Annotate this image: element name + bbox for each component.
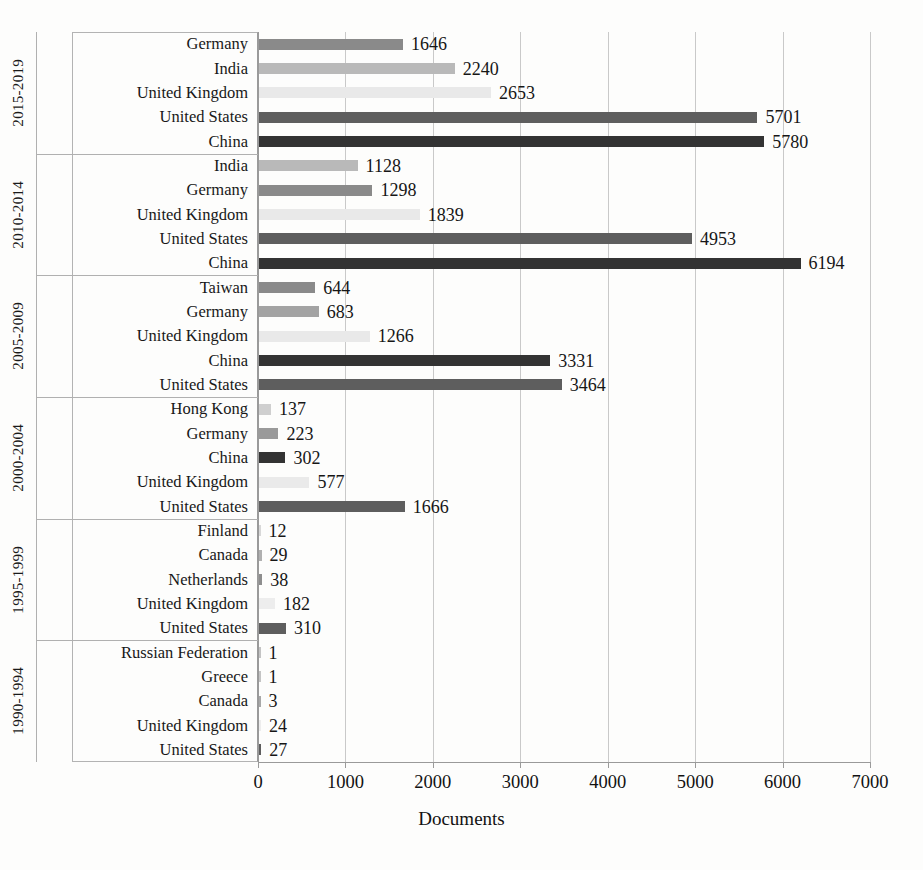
x-tick-mark-7000 xyxy=(870,762,871,768)
bar-value-label: 38 xyxy=(270,571,288,589)
x-tick-mark-2000 xyxy=(433,762,434,768)
bar-united-kingdom xyxy=(259,477,309,488)
group-separator xyxy=(36,154,258,155)
category-label: China xyxy=(76,134,248,151)
bar-united-states xyxy=(259,379,562,390)
category-label: United Kingdom xyxy=(76,474,248,491)
bar-united-kingdom xyxy=(259,331,370,342)
x-tick-label-2000: 2000 xyxy=(393,772,473,793)
group-label-2010-2014: 2010-2014 xyxy=(0,154,36,276)
category-label: Germany xyxy=(76,182,248,199)
bar-value-label: 27 xyxy=(269,741,287,759)
bar-value-label: 683 xyxy=(327,303,354,321)
x-tick-mark-4000 xyxy=(608,762,609,768)
x-tick-label-4000: 4000 xyxy=(568,772,648,793)
category-label: India xyxy=(76,158,248,175)
bar-united-kingdom xyxy=(259,87,491,98)
category-label: China xyxy=(76,450,248,467)
bar-china xyxy=(259,355,550,366)
bar-germany xyxy=(259,428,278,439)
category-label: United States xyxy=(76,742,248,759)
bar-germany xyxy=(259,39,403,50)
bar-value-label: 1 xyxy=(269,668,278,686)
category-label: Canada xyxy=(76,547,248,564)
category-label: United Kingdom xyxy=(76,718,248,735)
bar-value-label: 223 xyxy=(286,425,313,443)
bar-value-label: 5701 xyxy=(765,108,801,126)
bar-value-label: 182 xyxy=(283,595,310,613)
x-tick-mark-5000 xyxy=(695,762,696,768)
bar-united-states xyxy=(259,112,757,123)
category-label: Germany xyxy=(76,426,248,443)
category-label: United Kingdom xyxy=(76,85,248,102)
bar-hong-kong xyxy=(259,404,271,415)
category-label: Germany xyxy=(76,36,248,53)
category-label: Canada xyxy=(76,693,248,710)
bar-value-label: 577 xyxy=(317,473,344,491)
bar-united-states xyxy=(259,501,405,512)
bar-value-label: 6194 xyxy=(809,254,845,272)
bar-value-label: 24 xyxy=(269,717,287,735)
group-separator xyxy=(36,640,258,641)
bar-china xyxy=(259,258,801,269)
category-label: Germany xyxy=(76,304,248,321)
bar-canada xyxy=(259,550,262,561)
category-label: Russian Federation xyxy=(76,645,248,662)
bar-value-label: 302 xyxy=(293,449,320,467)
bar-value-label: 1666 xyxy=(413,498,449,516)
category-label: United States xyxy=(76,377,248,394)
category-label: Taiwan xyxy=(76,280,248,297)
bar-value-label: 12 xyxy=(269,522,287,540)
x-tick-label-5000: 5000 xyxy=(655,772,735,793)
bar-value-label: 2240 xyxy=(463,60,499,78)
x-tick-label-7000: 7000 xyxy=(830,772,910,793)
bar-united-kingdom xyxy=(259,209,420,220)
group-separator xyxy=(36,519,258,520)
bar-united-kingdom xyxy=(259,598,275,609)
bar-germany xyxy=(259,306,319,317)
category-label: India xyxy=(76,61,248,78)
group-label-2015-2019: 2015-2019 xyxy=(0,32,36,154)
group-separator xyxy=(36,275,258,276)
x-axis-title: Documents xyxy=(0,808,923,830)
bar-value-label: 1 xyxy=(269,644,278,662)
group-separator xyxy=(36,397,258,398)
bar-value-label: 4953 xyxy=(700,230,736,248)
category-label: China xyxy=(76,255,248,272)
bar-united-kingdom xyxy=(259,720,261,731)
bar-india xyxy=(259,160,358,171)
bar-china xyxy=(259,452,285,463)
bar-value-label: 1128 xyxy=(366,157,401,175)
x-tick-mark-6000 xyxy=(783,762,784,768)
category-label: United States xyxy=(76,620,248,637)
x-tick-label-6000: 6000 xyxy=(743,772,823,793)
category-label: Finland xyxy=(76,523,248,540)
category-label: Netherlands xyxy=(76,572,248,589)
bar-value-label: 1646 xyxy=(411,35,447,53)
bar-value-label: 1839 xyxy=(428,206,464,224)
bar-united-states xyxy=(259,233,692,244)
bar-russian-federation xyxy=(259,647,261,658)
bar-value-label: 2653 xyxy=(499,84,535,102)
bar-value-label: 310 xyxy=(294,619,321,637)
category-label: Greece xyxy=(76,669,248,686)
x-axis-line xyxy=(258,762,870,763)
category-label: United Kingdom xyxy=(76,328,248,345)
category-label: United Kingdom xyxy=(76,596,248,613)
bar-value-label: 1266 xyxy=(378,327,414,345)
bar-value-label: 644 xyxy=(323,279,350,297)
bar-value-label: 1298 xyxy=(380,181,416,199)
x-tick-mark-3000 xyxy=(520,762,521,768)
x-tick-mark-1000 xyxy=(345,762,346,768)
gridline-7000 xyxy=(870,32,871,762)
group-label-1995-1999: 1995-1999 xyxy=(0,519,36,641)
bar-united-states xyxy=(259,623,286,634)
category-label: United Kingdom xyxy=(76,207,248,224)
bar-finland xyxy=(259,525,261,536)
x-tick-label-1000: 1000 xyxy=(305,772,385,793)
bar-value-label: 3 xyxy=(269,692,278,710)
bar-canada xyxy=(259,696,261,707)
bar-united-states xyxy=(259,744,261,755)
bar-value-label: 137 xyxy=(279,400,306,418)
bar-germany xyxy=(259,185,372,196)
